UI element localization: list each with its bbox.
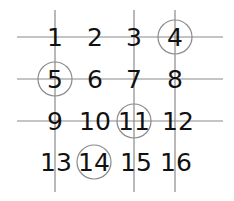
number-4: 4 [167, 23, 183, 52]
number-3: 3 [126, 23, 142, 52]
number-9: 9 [47, 107, 63, 136]
number-13: 13 [40, 148, 72, 177]
number-1: 1 [47, 23, 63, 52]
diagram-svg: 1 2 3 4 5 6 7 8 9 10 11 12 13 14 15 16 [0, 0, 234, 201]
number-11: 11 [118, 107, 150, 136]
number-5: 5 [47, 65, 63, 94]
number-14: 14 [78, 148, 110, 177]
number-grid-diagram: 1 2 3 4 5 6 7 8 9 10 11 12 13 14 15 16 [0, 0, 234, 201]
number-12: 12 [162, 107, 194, 136]
number-7: 7 [126, 65, 142, 94]
number-16: 16 [160, 148, 192, 177]
number-2: 2 [87, 23, 103, 52]
number-6: 6 [87, 65, 103, 94]
number-10: 10 [79, 107, 111, 136]
number-15: 15 [120, 148, 152, 177]
number-8: 8 [167, 65, 183, 94]
